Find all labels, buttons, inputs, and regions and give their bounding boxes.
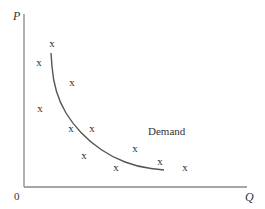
x-axis-label: Q: [245, 190, 254, 204]
data-point-marker: x: [113, 161, 119, 173]
origin-label: 0: [14, 190, 20, 202]
data-point-marker: x: [37, 102, 43, 114]
y-axis-label: P: [12, 9, 21, 23]
data-point-marker: x: [89, 122, 95, 134]
demand-curve-label: Demand: [148, 125, 186, 137]
data-point-marker: x: [157, 155, 163, 167]
data-point-marker: x: [49, 37, 55, 49]
demand-curve: [51, 53, 164, 170]
data-point-marker: x: [81, 149, 87, 161]
data-point-marker: x: [132, 142, 138, 154]
data-point-marker: x: [36, 56, 42, 68]
data-point-marker: x: [68, 122, 74, 134]
data-point-marker: x: [69, 76, 75, 88]
data-point-marker: x: [182, 161, 188, 173]
demand-chart: PQ0xxxxxxxxxxxDemand: [0, 0, 265, 209]
